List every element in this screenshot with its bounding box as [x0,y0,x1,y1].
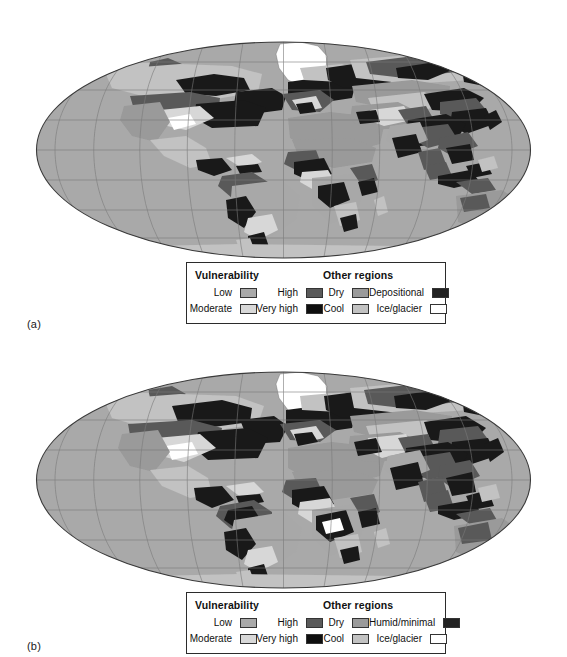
legend-swatch-high-b [306,618,323,628]
legend-label-dry-b: Dry [328,617,344,628]
panel-label-a: (a) [27,318,41,330]
legend-item-dry-a: Dry [323,287,369,298]
legend-item-cool-a: Cool [323,303,369,314]
legend-b-other-row-1: Dry Humid/minimal [323,615,447,630]
legend-label-moderate-b: Moderate [190,633,232,644]
legend-a-vulnerability-row-2: Moderate Very high [195,301,323,316]
legend-label-ice-glacier-b: Ice/glacier [376,633,422,644]
legend-swatch-very-high-a [306,304,323,314]
legend-a-other-row-1: Dry Depositional [323,285,447,300]
legend-a-other-row-2: Cool Ice/glacier [323,301,447,316]
legend-label-high-b: High [277,617,298,628]
figure-panel-a: Vulnerability Low High Moderate Very hig… [0,0,567,330]
legend-item-low-b: Low [195,617,257,628]
legend-b-vulnerability-row-2: Moderate Very high [195,631,323,646]
legend-label-moderate-a: Moderate [190,303,232,314]
legend-b-vulnerability-column: Vulnerability Low High Moderate Very hig… [195,599,323,647]
legend-item-ice-glacier-b: Ice/glacier [369,633,447,644]
map-base-b [0,330,567,620]
legend-swatch-low-a [240,288,257,298]
legend-label-humid-minimal-b: Humid/minimal [369,617,435,628]
legend-b-vulnerability-title: Vulnerability [195,599,323,611]
legend-item-cool-b: Cool [323,633,369,644]
legend-a-other-regions-column: Other regions Dry Depositional Cool Ice/… [323,269,447,317]
legend-item-high-b: High [257,617,323,628]
legend-item-dry-b: Dry [323,617,369,628]
legend-swatch-dry-b [352,618,369,628]
legend-b-other-regions-column: Other regions Dry Humid/minimal Cool Ice… [323,599,447,647]
legend-label-high-a: High [277,287,298,298]
map-base-a [0,0,567,290]
legend-swatch-ice-glacier-a [430,304,447,314]
world-map-b-svg [0,330,567,620]
legend-label-cool-a: Cool [323,303,344,314]
legend-a-vulnerability-row-1: Low High [195,285,323,300]
legend-b: Vulnerability Low High Moderate Very hig… [186,592,446,654]
legend-label-depositional-a: Depositional [369,287,424,298]
world-map-a-svg [0,0,567,290]
legend-item-low-a: Low [195,287,257,298]
legend-label-low-b: Low [214,617,232,628]
legend-item-depositional-a: Depositional [369,287,449,298]
legend-item-moderate-b: Moderate [195,633,257,644]
legend-item-humid-minimal-b: Humid/minimal [369,617,460,628]
panel-label-b: (b) [27,640,41,652]
legend-swatch-high-a [306,288,323,298]
legend-b-other-regions-title: Other regions [323,599,447,611]
legend-swatch-cool-a [352,304,369,314]
legend-swatch-dry-a [352,288,369,298]
legend-b-vulnerability-row-1: Low High [195,615,323,630]
legend-a-vulnerability-column: Vulnerability Low High Moderate Very hig… [195,269,323,317]
legend-a-other-regions-title: Other regions [323,269,447,281]
legend-swatch-low-b [240,618,257,628]
legend-item-high-a: High [257,287,323,298]
legend-swatch-moderate-b [240,634,257,644]
legend-item-moderate-a: Moderate [195,303,257,314]
legend-label-cool-b: Cool [323,633,344,644]
legend-label-very-high-a: Very high [256,303,298,314]
world-map-a [0,0,567,290]
legend-a: Vulnerability Low High Moderate Very hig… [186,262,446,324]
legend-item-ice-glacier-a: Ice/glacier [369,303,447,314]
figure-panel-b: Vulnerability Low High Moderate Very hig… [0,330,567,657]
legend-label-dry-a: Dry [328,287,344,298]
legend-item-very-high-a: Very high [257,303,323,314]
legend-swatch-very-high-b [306,634,323,644]
legend-label-low-a: Low [214,287,232,298]
legend-label-ice-glacier-a: Ice/glacier [376,303,422,314]
legend-item-very-high-b: Very high [257,633,323,644]
world-map-b [0,330,567,620]
legend-label-very-high-b: Very high [256,633,298,644]
legend-a-vulnerability-title: Vulnerability [195,269,323,281]
legend-swatch-humid-minimal-b [443,618,460,628]
legend-b-other-row-2: Cool Ice/glacier [323,631,447,646]
legend-swatch-depositional-a [432,288,449,298]
legend-swatch-moderate-a [240,304,257,314]
legend-swatch-ice-glacier-b [430,634,447,644]
legend-swatch-cool-b [352,634,369,644]
